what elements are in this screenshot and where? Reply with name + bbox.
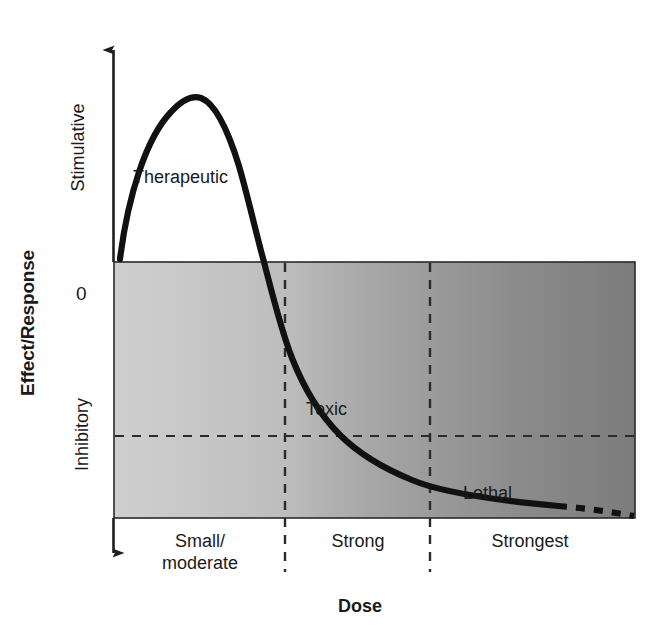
inhibitory-shaded-region (114, 262, 635, 518)
y-tick-label-zero: 0 (76, 283, 87, 305)
x-tick-label-small-moderate-line2: moderate (162, 553, 238, 573)
annotation-toxic: Toxic (306, 399, 347, 420)
x-tick-label-strong: Strong (288, 530, 428, 552)
x-tick-label-strongest: Strongest (455, 530, 605, 552)
x-tick-label-small-moderate: Small/ moderate (130, 530, 270, 574)
annotation-lethal: Lethal (463, 483, 512, 504)
x-tick-label-small-moderate-line1: Small/ (175, 531, 225, 551)
y-tick-label-stimulative: Stimulative (68, 58, 89, 238)
annotation-therapeutic: Therapeutic (133, 167, 228, 188)
y-tick-label-inhibitory: Inhibitory (72, 350, 93, 520)
y-axis-title: Effect/Response (17, 103, 39, 543)
x-axis-title: Dose (260, 596, 460, 617)
